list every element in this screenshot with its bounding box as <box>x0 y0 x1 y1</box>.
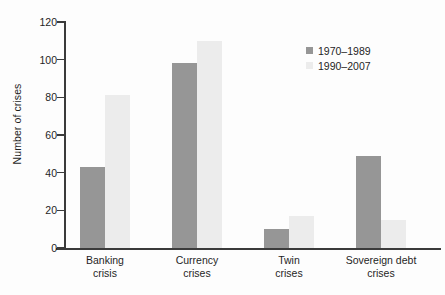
bar <box>172 63 197 248</box>
x-axis-category-label-line: crises <box>321 267 441 280</box>
y-tick-mark <box>57 210 65 212</box>
y-tick-label: 100 <box>31 54 57 66</box>
legend: 1970–19891990–2007 <box>306 43 371 73</box>
y-tick-mark <box>57 134 65 136</box>
bar <box>289 216 314 248</box>
legend-item-label: 1970–1989 <box>318 45 371 57</box>
x-axis-category-label: Sovereign debtcrises <box>321 254 441 280</box>
y-tick-label: 120 <box>31 16 57 28</box>
bar <box>356 156 381 248</box>
legend-item: 1970–1989 <box>306 43 371 58</box>
legend-swatch-icon <box>306 47 313 54</box>
bar <box>197 41 222 248</box>
x-axis-line <box>56 248 441 250</box>
y-tick-label: 20 <box>31 204 57 216</box>
bar-chart: Number of crises 020406080100120 Banking… <box>0 0 445 295</box>
bar-group <box>172 22 222 248</box>
y-tick-label: 40 <box>31 167 57 179</box>
y-tick-label: 0 <box>31 242 57 254</box>
legend-item-label: 1990–2007 <box>318 60 371 72</box>
legend-item: 1990–2007 <box>306 58 371 73</box>
y-tick-mark <box>57 59 65 61</box>
y-tick-label: 60 <box>31 129 57 141</box>
y-tick-mark <box>57 247 65 249</box>
bar <box>381 220 406 248</box>
bar <box>105 95 130 248</box>
y-tick-label: 80 <box>31 91 57 103</box>
y-tick-mark <box>57 97 65 99</box>
plot-area <box>66 22 441 248</box>
bar <box>264 229 289 248</box>
bar <box>80 167 105 248</box>
bar-group <box>80 22 130 248</box>
legend-swatch-icon <box>306 62 313 69</box>
y-axis-title-text: Number of crises <box>11 84 23 165</box>
x-axis-category-label-line: Sovereign debt <box>321 254 441 267</box>
y-axis-title: Number of crises <box>6 0 28 248</box>
y-tick-mark <box>57 172 65 174</box>
y-tick-mark <box>57 21 65 23</box>
